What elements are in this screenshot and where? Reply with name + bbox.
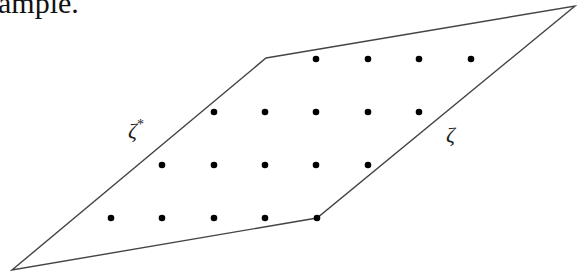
lattice-point xyxy=(365,109,372,116)
parallelogram-outline xyxy=(12,6,575,270)
lattice-point xyxy=(313,162,320,169)
lattice-point xyxy=(159,162,166,169)
lattice-point xyxy=(313,56,320,63)
lattice-point xyxy=(416,109,423,116)
lattice-point xyxy=(211,109,218,116)
lattice-point xyxy=(108,215,115,222)
lattice-point xyxy=(262,215,269,222)
lattice-point xyxy=(314,215,321,222)
label-zeta-star: ζ* xyxy=(128,117,144,143)
lattice-point xyxy=(313,109,320,116)
lattice-point xyxy=(211,162,218,169)
lattice-point xyxy=(365,56,372,63)
lattice-point xyxy=(468,56,475,63)
lattice-point xyxy=(365,162,372,169)
lattice-point xyxy=(159,215,166,222)
lattice-point xyxy=(262,162,269,169)
lattice-point xyxy=(211,215,218,222)
lattice-points xyxy=(108,56,475,222)
label-zeta: ζ xyxy=(446,122,457,147)
lattice-point xyxy=(416,56,423,63)
lattice-diagram: ζ* ζ xyxy=(0,0,577,271)
lattice-point xyxy=(262,109,269,116)
